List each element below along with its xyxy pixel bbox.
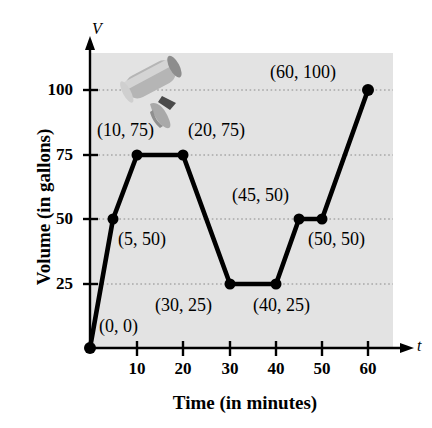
data-point bbox=[294, 214, 305, 225]
volume-vs-time-chart: V t 100 75 50 25 10 20 30 40 50 60 Volum… bbox=[0, 0, 432, 428]
point-label-0-0: (0, 0) bbox=[99, 316, 138, 337]
x-axis-title: Time (in minutes) bbox=[110, 392, 380, 414]
xtick-label-20: 20 bbox=[165, 359, 201, 379]
data-point bbox=[108, 214, 119, 225]
xtick-label-40: 40 bbox=[258, 359, 294, 379]
point-label-60-100: (60, 100) bbox=[270, 62, 336, 83]
data-point bbox=[362, 84, 374, 96]
data-point bbox=[317, 214, 328, 225]
xtick-label-30: 30 bbox=[212, 359, 248, 379]
x-axis-variable-label: t bbox=[417, 337, 421, 355]
data-point bbox=[271, 279, 282, 290]
point-label-20-75: (20, 75) bbox=[188, 120, 245, 141]
point-label-10-75: (10, 75) bbox=[97, 120, 154, 141]
point-label-45-50: (45, 50) bbox=[232, 185, 289, 206]
y-axis-title: Volume (in gallons) bbox=[33, 97, 55, 317]
point-label-50-50: (50, 50) bbox=[308, 229, 365, 250]
xtick-label-60: 60 bbox=[350, 359, 386, 379]
y-axis-variable-label: V bbox=[92, 20, 102, 38]
data-point bbox=[84, 342, 96, 354]
data-point bbox=[132, 150, 143, 161]
xtick-label-10: 10 bbox=[119, 359, 155, 379]
point-label-30-25: (30, 25) bbox=[155, 295, 212, 316]
point-label-5-50: (5, 50) bbox=[118, 229, 166, 250]
point-label-40-25: (40, 25) bbox=[253, 295, 310, 316]
data-point bbox=[178, 150, 189, 161]
data-point bbox=[225, 279, 236, 290]
xtick-label-50: 50 bbox=[304, 359, 340, 379]
